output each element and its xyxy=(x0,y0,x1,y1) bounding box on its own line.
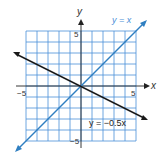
y-axis-label: y xyxy=(76,6,83,17)
x-axis-label: x xyxy=(150,80,157,91)
coordinate-plane: y x −5 5 5 −5 y = x y = −0.5x xyxy=(0,0,161,160)
x-max-tick: 5 xyxy=(131,89,136,98)
line2-label: y = −0.5x xyxy=(89,118,127,128)
y-min-tick: −5 xyxy=(70,137,80,146)
x-min-tick: −5 xyxy=(17,89,27,98)
line1-label: y = x xyxy=(111,15,132,25)
y-max-tick: 5 xyxy=(74,30,79,39)
x-axis-arrow-icon xyxy=(144,83,150,89)
line2-arrow-end-icon xyxy=(141,115,148,120)
y-axis-arrow-icon xyxy=(78,19,84,25)
